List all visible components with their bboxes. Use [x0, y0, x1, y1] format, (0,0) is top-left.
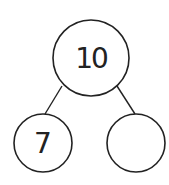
- connector-left: [45, 86, 62, 114]
- part-circle-right: [107, 114, 165, 172]
- whole-value: 10: [75, 42, 107, 75]
- number-bond-diagram: 10 7: [0, 0, 169, 185]
- part-left-value: 7: [34, 127, 52, 160]
- connector-right: [117, 86, 135, 114]
